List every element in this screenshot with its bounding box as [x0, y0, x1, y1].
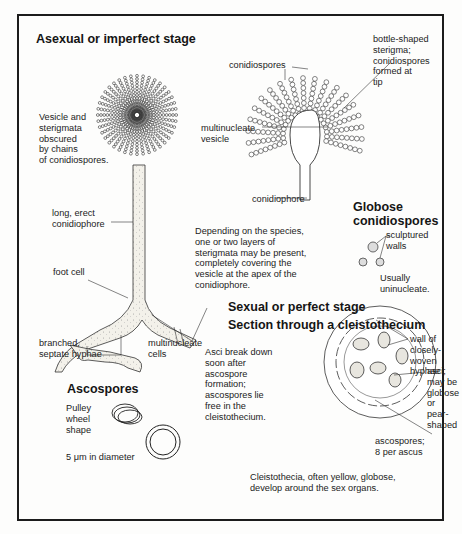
heading-ascospores: Ascospores	[67, 382, 139, 396]
label-usually-uninucleate: Usually uninucleate.	[380, 273, 430, 295]
label-conidiospores: conidiospores	[229, 60, 286, 71]
globose-conidiospore-icon	[359, 242, 384, 266]
heading-globose-conidiospores: Globose conidiospores	[353, 200, 438, 228]
vesicle-icon	[246, 76, 365, 200]
label-multinucleate-cells: multinucleate cells	[148, 338, 202, 360]
label-multinucleate-vesicle: multinucleate vesicle	[201, 123, 255, 145]
conidial-head-icon	[96, 74, 177, 155]
ascospore-pulley-icon	[112, 404, 142, 424]
label-foot-cell: foot cell	[53, 267, 85, 278]
label-depending-species: Depending on the species, one or two lay…	[195, 226, 306, 291]
heading-cleistothecium-section: Section through a cleistothecium	[228, 318, 425, 332]
label-conidiophore: conidiophore	[252, 194, 305, 205]
label-cleistothecia-note: Cleistothecia, often yellow, globose, de…	[250, 472, 396, 494]
label-ascospores-per-ascus: ascospores; 8 per ascus	[375, 436, 425, 458]
label-long-erect-conidiophore: long, erect conidiophore	[52, 208, 105, 230]
label-sculptured-walls: sculptured walls	[386, 230, 428, 252]
label-branched-hyphae: branched, septate hyphae	[39, 338, 102, 360]
label-bottle-sterigma: bottle-shaped sterigma; conidiospores fo…	[373, 34, 430, 88]
heading-asexual-stage: Asexual or imperfect stage	[36, 32, 196, 46]
label-vesicle-obscured: Vesicle and sterigmata obscured by chain…	[39, 112, 108, 166]
heading-sexual-stage: Sexual or perfect stage	[228, 300, 366, 314]
label-pulley-wheel: Pulley wheel shape	[66, 403, 91, 435]
ascospore-ring-icon	[146, 425, 180, 459]
label-diameter: 5 μm in diameter	[66, 452, 135, 463]
label-asci-break-down: Asci break down soon after ascospore for…	[205, 347, 272, 423]
label-asci-shape: asci; may be globose or pear-shaped	[427, 366, 462, 431]
